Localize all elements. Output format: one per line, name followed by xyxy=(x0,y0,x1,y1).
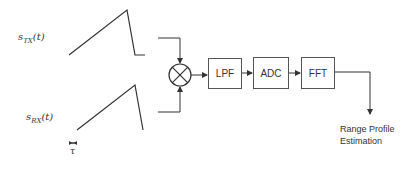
rx-chirp-waveform xyxy=(77,85,143,130)
output-label-line2: Estimation xyxy=(340,135,395,147)
fft-output-arrow xyxy=(335,72,370,114)
rx-signal-label: sRX(t) xyxy=(26,111,53,125)
delay-marker xyxy=(69,141,77,145)
lpf-block: LPF xyxy=(208,58,242,89)
adc-block: ADC xyxy=(253,57,289,89)
fft-block: FFT xyxy=(301,57,335,89)
output-label: Range Profile Estimation xyxy=(340,123,395,147)
rx-to-mixer-line xyxy=(158,87,180,112)
mixer-icon xyxy=(169,64,191,86)
delay-label: τ xyxy=(70,146,75,156)
tx-chirp-waveform xyxy=(69,10,145,55)
output-label-line1: Range Profile xyxy=(340,123,395,135)
tx-to-mixer-line xyxy=(158,38,180,63)
tx-signal-label: sTX(t) xyxy=(18,31,45,45)
